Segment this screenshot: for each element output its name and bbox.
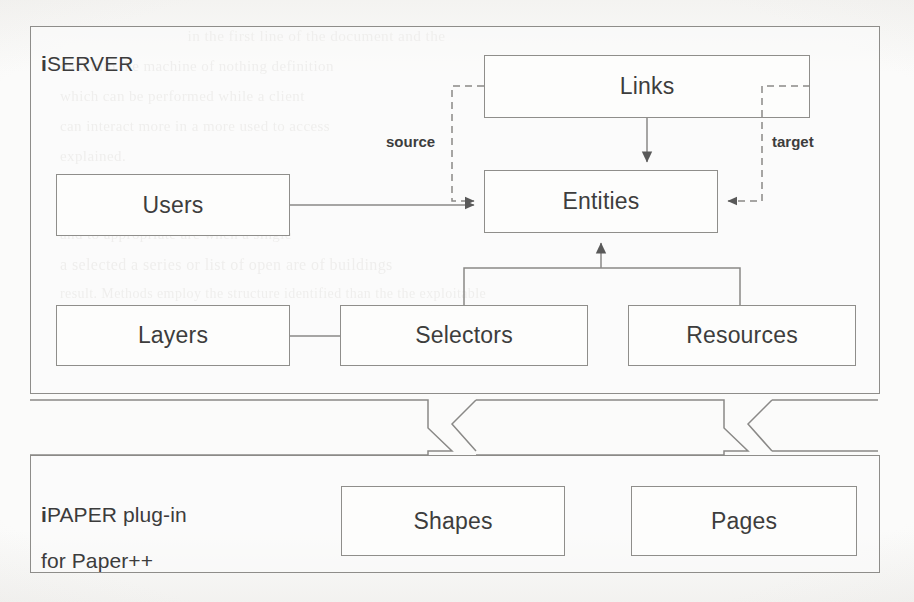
node-shapes[interactable]: Shapes <box>341 486 565 556</box>
node-entities-label: Entities <box>562 190 639 213</box>
node-links-label: Links <box>620 75 675 98</box>
node-pages[interactable]: Pages <box>631 486 857 556</box>
node-users[interactable]: Users <box>56 174 290 236</box>
node-selectors-label: Selectors <box>415 324 513 347</box>
node-selectors[interactable]: Selectors <box>340 305 588 366</box>
ipaper-title-text-line2: for Paper++ <box>41 550 187 573</box>
node-users-label: Users <box>142 194 203 217</box>
ipaper-title-text: PAPER plug-in <box>47 503 187 526</box>
node-layers[interactable]: Layers <box>56 305 290 366</box>
edge-label-source: source <box>386 133 435 150</box>
edge-label-target: target <box>772 133 814 150</box>
panel-title-ipaper: iPAPER plug-in for Paper++ <box>41 459 187 595</box>
node-entities[interactable]: Entities <box>484 170 718 233</box>
node-layers-label: Layers <box>138 324 208 347</box>
diagram-canvas: iSERVER iPAPER plug-in for Paper++ Links… <box>0 0 914 602</box>
node-resources[interactable]: Resources <box>628 305 856 366</box>
node-pages-label: Pages <box>711 510 777 533</box>
panel-title-iserver: iSERVER <box>41 30 134 75</box>
node-links[interactable]: Links <box>484 55 810 118</box>
node-resources-label: Resources <box>686 324 798 347</box>
node-shapes-label: Shapes <box>413 510 492 533</box>
iserver-title-text: SERVER <box>47 52 134 75</box>
